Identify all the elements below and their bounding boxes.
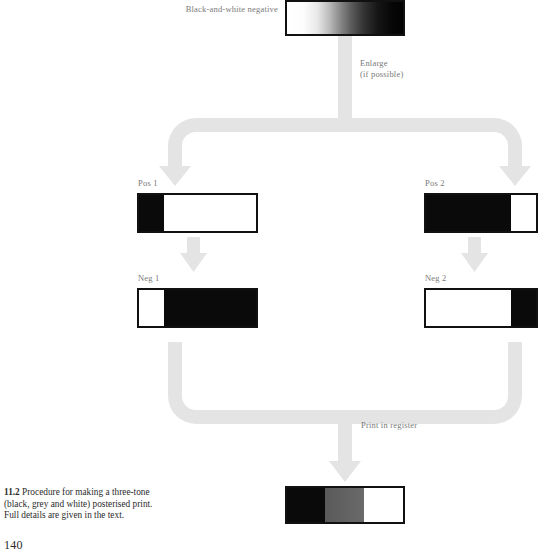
fork-arrow-enlarge <box>159 36 531 186</box>
tile-pos-1 <box>137 193 258 233</box>
neg1-tone-swatch <box>139 290 256 326</box>
merge-arrow-print-in-register <box>168 342 522 482</box>
figure-caption-number: 11.2 <box>4 487 20 497</box>
arrow-pos2-to-neg2 <box>461 237 488 272</box>
label-pos-2: Pos 2 <box>425 178 445 189</box>
label-enlarge-line1: Enlarge <box>360 58 388 69</box>
pos1-tone-swatch <box>139 195 256 231</box>
negative-gradient-swatch <box>287 2 403 34</box>
tile-black-and-white-negative <box>285 0 405 36</box>
flow-arrow-layer <box>0 0 544 558</box>
label-pos-1: Pos 1 <box>138 178 158 189</box>
figure-caption: 11.2 Procedure for making a three-tone (… <box>4 487 154 522</box>
label-enlarge-line2: (if possible) <box>360 69 403 80</box>
label-black-and-white-negative: Black-and-white negative <box>150 4 278 15</box>
posterisation-procedure-diagram: Black-and-white negative Enlarge (if pos… <box>0 0 544 558</box>
tile-neg-1 <box>137 288 258 328</box>
tile-three-tone-result <box>285 486 405 524</box>
label-print-in-register: Print in register <box>361 420 417 431</box>
page-number: 140 <box>4 538 23 553</box>
arrow-pos1-to-neg1 <box>180 237 207 272</box>
tile-pos-2 <box>424 193 538 233</box>
figure-caption-text: Procedure for making a three-tone (black… <box>4 487 152 520</box>
label-neg-1: Neg 1 <box>138 273 160 284</box>
label-neg-2: Neg 2 <box>425 273 447 284</box>
neg2-tone-swatch <box>426 290 536 326</box>
pos2-tone-swatch <box>426 195 536 231</box>
result-tone-swatch <box>287 488 403 522</box>
tile-neg-2 <box>424 288 538 328</box>
